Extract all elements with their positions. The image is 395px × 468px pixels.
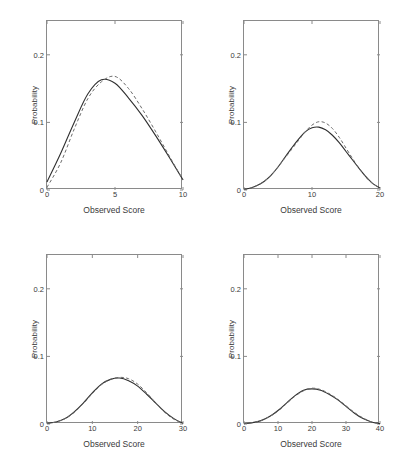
plot-area-bottom-right: Probability Observed Score 00.10.2 01020…: [243, 254, 379, 423]
x-tick-label: 20: [133, 424, 141, 433]
y-tick-label: 0.1: [34, 118, 44, 127]
curve-dashed: [244, 122, 380, 190]
y-tick-label: 0: [40, 186, 44, 195]
curve-solid: [244, 127, 380, 189]
curves-bottom-right: [244, 255, 378, 422]
x-tick-label: 10: [274, 424, 282, 433]
x-tick-label: 10: [88, 424, 96, 433]
y-tick-label: 0.2: [231, 50, 241, 59]
y-tick-label: 0.1: [231, 118, 241, 127]
x-tick-label: 0: [45, 190, 49, 199]
x-tick-label: 20: [308, 424, 316, 433]
plot-area-top-left: Probability Observed Score 00.10.2 0510: [46, 20, 182, 189]
x-tick-label: 5: [113, 190, 117, 199]
y-tick-label: 0.1: [231, 352, 241, 361]
x-tick-label: 30: [342, 424, 350, 433]
curves-top-left: [47, 21, 181, 188]
y-tick-label: 0.2: [34, 284, 44, 293]
plot-area-bottom-left: Probability Observed Score 00.10.2 01020…: [46, 254, 182, 423]
x-axis-label: Observed Score: [83, 439, 144, 449]
curves-bottom-left: [47, 255, 181, 422]
x-tick-label: 30: [179, 424, 187, 433]
x-axis-label: Observed Score: [280, 205, 341, 215]
x-tick-label: 10: [308, 190, 316, 199]
panel-top-left: Probability Observed Score 00.10.2 0510: [0, 0, 197, 234]
panel-bottom-left: Probability Observed Score 00.10.2 01020…: [0, 234, 197, 468]
x-axis-label: Observed Score: [280, 439, 341, 449]
y-tick-label: 0: [237, 186, 241, 195]
x-tick-label: 0: [242, 424, 246, 433]
x-axis-label: Observed Score: [83, 205, 144, 215]
x-tick-label: 0: [242, 190, 246, 199]
curve-dashed: [47, 377, 183, 423]
plot-area-top-right: Probability Observed Score 00.10.2 01020: [243, 20, 379, 189]
y-tick-label: 0.1: [34, 352, 44, 361]
y-tick-label: 0: [40, 420, 44, 429]
x-tick-label: 20: [376, 190, 384, 199]
panel-bottom-right: Probability Observed Score 00.10.2 01020…: [197, 234, 395, 468]
curve-solid: [47, 79, 183, 182]
curves-top-right: [244, 21, 378, 188]
curve-solid: [47, 378, 183, 423]
panel-top-right: Probability Observed Score 00.10.2 01020: [197, 0, 395, 234]
curve-solid: [244, 389, 380, 424]
y-tick-label: 0: [237, 420, 241, 429]
x-tick-label: 10: [179, 190, 187, 199]
y-tick-label: 0.2: [34, 50, 44, 59]
curve-dashed: [47, 76, 183, 187]
x-tick-label: 0: [45, 424, 49, 433]
y-tick-label: 0.2: [231, 284, 241, 293]
curve-dashed: [244, 388, 380, 424]
figure-grid: Probability Observed Score 00.10.2 0510 …: [0, 0, 395, 468]
x-tick-label: 40: [376, 424, 384, 433]
